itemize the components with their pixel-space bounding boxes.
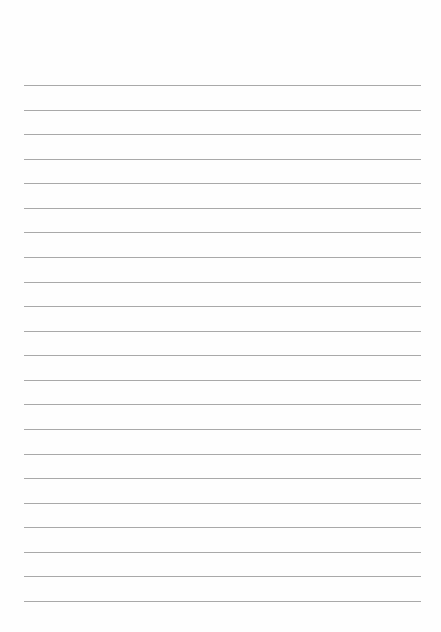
ruled-line	[24, 85, 421, 86]
ruled-line	[24, 208, 421, 209]
ruled-line	[24, 576, 421, 577]
ruled-line	[24, 429, 421, 430]
ruled-line	[24, 404, 421, 405]
ruled-line	[24, 232, 421, 233]
ruled-line	[24, 183, 421, 184]
ruled-line	[24, 355, 421, 356]
ruled-line	[24, 257, 421, 258]
ruled-line	[24, 331, 421, 332]
ruled-line	[24, 306, 421, 307]
ruled-line	[24, 503, 421, 504]
ruled-line	[24, 527, 421, 528]
lined-paper-page	[0, 0, 441, 632]
ruled-line	[24, 159, 421, 160]
ruled-line	[24, 110, 421, 111]
ruled-line	[24, 282, 421, 283]
ruled-line	[24, 478, 421, 479]
ruled-line	[24, 601, 421, 602]
ruled-line	[24, 380, 421, 381]
ruled-line	[24, 134, 421, 135]
ruled-line	[24, 454, 421, 455]
ruled-line	[24, 552, 421, 553]
